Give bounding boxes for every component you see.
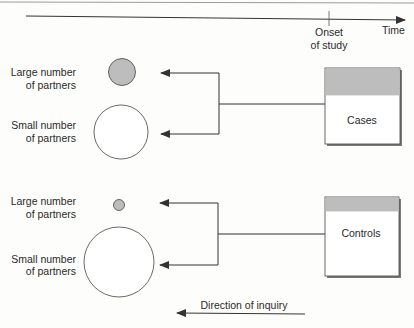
cases-small-label-2: of partners bbox=[26, 132, 76, 144]
controls-small-partners-circle bbox=[84, 227, 154, 297]
direction-label: Direction of inquiry bbox=[201, 299, 289, 311]
case-control-diagram: Time Onset of study Large number of part… bbox=[0, 0, 414, 328]
time-label: Time bbox=[382, 24, 405, 36]
controls-large-label-1: Large number bbox=[11, 195, 77, 207]
controls-large-label-2: of partners bbox=[26, 208, 76, 220]
controls-small-label-1: Small number bbox=[11, 253, 76, 265]
top-border bbox=[0, 2, 414, 3]
controls-large-partners-circle bbox=[114, 200, 125, 211]
controls-group: Large number of partners Small number of… bbox=[11, 195, 401, 297]
cases-box-label: Cases bbox=[347, 114, 377, 126]
time-axis: Time Onset of study bbox=[26, 11, 405, 51]
cases-small-partners-circle bbox=[94, 105, 148, 159]
cases-large-label-1: Large number bbox=[11, 66, 77, 78]
controls-box-label: Controls bbox=[341, 227, 380, 239]
onset-label-line1: Onset bbox=[315, 26, 343, 38]
direction-arrow bbox=[177, 313, 305, 314]
onset-label-line2: of study bbox=[311, 39, 349, 51]
cases-small-label-1: Small number bbox=[11, 119, 76, 131]
cases-large-partners-circle bbox=[109, 59, 136, 86]
cases-group: Large number of partners Small number of… bbox=[11, 59, 402, 160]
cases-large-label-2: of partners bbox=[26, 79, 76, 91]
controls-small-label-2: of partners bbox=[26, 265, 76, 277]
direction-of-inquiry: Direction of inquiry bbox=[177, 299, 305, 314]
